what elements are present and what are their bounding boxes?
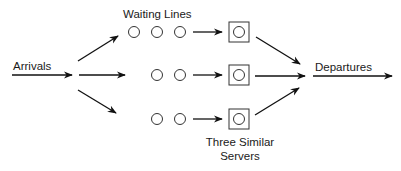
waiting-lines-label: Waiting Lines	[123, 8, 192, 20]
customer-icon	[175, 27, 186, 38]
converge-arrow-top-icon	[256, 37, 300, 64]
queue-1	[129, 27, 223, 38]
customer-icon	[152, 70, 163, 81]
servers-caption-line2: Servers	[220, 150, 260, 162]
fanout-arrow-bottom-icon	[78, 90, 116, 113]
departures-label: Departures	[315, 61, 372, 73]
customer-in-service-icon	[234, 114, 245, 125]
server-1	[229, 22, 249, 42]
server-2	[229, 65, 249, 85]
converge-arrow-bottom-icon	[255, 88, 299, 115]
customer-in-service-icon	[234, 70, 245, 81]
arrivals-label: Arrivals	[13, 60, 52, 72]
customer-icon	[175, 70, 186, 81]
servers-caption-line1: Three Similar	[206, 136, 275, 148]
customer-icon	[152, 114, 163, 125]
customer-icon	[129, 27, 140, 38]
queuing-diagram: Arrivals Waiting Lines Departur	[0, 0, 401, 171]
customer-in-service-icon	[234, 27, 245, 38]
server-3	[229, 109, 249, 129]
queue-2	[152, 70, 223, 81]
queue-3	[152, 114, 223, 125]
customer-icon	[152, 27, 163, 38]
fanout-arrow-top-icon	[78, 36, 118, 61]
customer-icon	[175, 114, 186, 125]
